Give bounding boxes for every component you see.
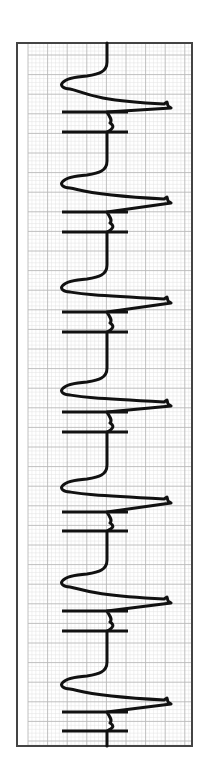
ecg-trace [62, 43, 171, 746]
grid-major-lines [28, 43, 192, 746]
grid-minor-lines [28, 43, 192, 746]
ecg-strip [0, 0, 202, 784]
strip-frame [17, 43, 192, 746]
